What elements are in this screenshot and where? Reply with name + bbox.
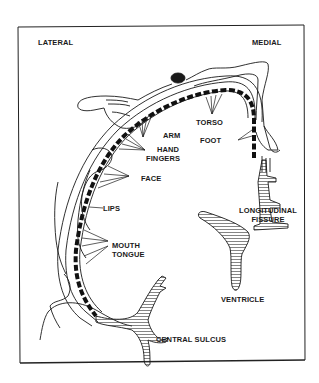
- label-face: FACE: [141, 174, 161, 183]
- label-torso: TORSO: [196, 118, 223, 127]
- label-hand: HAND: [148, 145, 188, 154]
- homunculus-diagram: LATERAL MEDIAL TORSO FOOT ARM HAND FINGE…: [0, 0, 319, 383]
- central-sulcus-shape: [96, 276, 168, 366]
- label-ventricle: VENTRICLE: [221, 295, 264, 304]
- motor-strip: [76, 90, 254, 316]
- label-arm: ARM: [163, 131, 180, 140]
- homunculus-head: [171, 73, 185, 83]
- label-tongue: TONGUE: [112, 250, 145, 259]
- diagram-artwork: [0, 0, 319, 383]
- label-foot: FOOT: [200, 136, 221, 145]
- label-central-sulcus: CENTRAL SULCUS: [156, 335, 226, 344]
- label-lips: LIPS: [103, 204, 120, 213]
- label-longitudinal: LONGITUDINAL: [236, 206, 300, 215]
- label-mouth: MOUTH: [112, 241, 140, 250]
- label-medial: MEDIAL: [252, 38, 281, 47]
- label-lateral: LATERAL: [38, 38, 73, 47]
- label-fissure: FISSURE: [236, 215, 300, 224]
- label-fingers: FINGERS: [146, 154, 180, 163]
